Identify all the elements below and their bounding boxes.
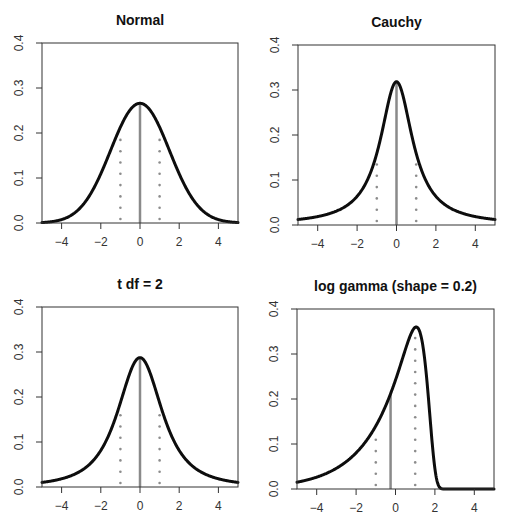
dotted-reference-line	[375, 439, 378, 487]
y-axis: 0.00.10.20.30.4	[12, 34, 42, 231]
x-tick-label: −2	[349, 501, 363, 515]
y-axis: 0.00.10.20.30.4	[12, 298, 42, 495]
y-tick-label: 0.3	[267, 345, 281, 362]
y-tick-label: 0.4	[12, 34, 26, 51]
dotted-reference-line	[415, 163, 418, 222]
y-tick-label: 0.2	[12, 388, 26, 405]
dotted-reference-line	[119, 139, 122, 221]
y-tick-label: 0.0	[12, 478, 26, 495]
y-axis: 0.00.10.20.30.4	[267, 300, 297, 497]
dotted-reference-line	[158, 139, 161, 221]
x-tick-label: 2	[433, 237, 440, 251]
panel-title: t df = 2	[117, 276, 163, 292]
x-tick-label: 4	[471, 501, 478, 515]
y-tick-label: 0.2	[267, 390, 281, 407]
x-axis: −4−2024	[310, 489, 478, 515]
dotted-reference-line	[119, 414, 122, 484]
density-curve	[297, 327, 494, 489]
x-tick-label: −4	[310, 501, 324, 515]
x-axis: −4−2024	[311, 225, 479, 251]
y-tick-label: 0.1	[12, 169, 26, 186]
x-tick-label: −4	[311, 237, 325, 251]
y-tick-label: 0.2	[268, 126, 282, 143]
x-tick-label: 0	[137, 499, 144, 513]
y-tick-label: 0.0	[268, 216, 282, 233]
x-axis: −4−2024	[55, 223, 222, 249]
y-tick-label: 0.1	[12, 433, 26, 450]
y-tick-label: 0.4	[268, 36, 282, 53]
y-tick-label: 0.3	[12, 79, 26, 96]
y-tick-label: 0.4	[267, 300, 281, 317]
x-axis: −4−2024	[55, 487, 222, 513]
x-tick-label: −2	[94, 235, 108, 249]
x-tick-label: −2	[94, 499, 108, 513]
y-tick-label: 0.0	[267, 480, 281, 497]
x-tick-label: 4	[472, 237, 479, 251]
x-tick-label: 2	[432, 501, 439, 515]
x-tick-label: 2	[176, 235, 183, 249]
panel-t-df-2: t df = 2−4−20240.00.10.20.30.4	[12, 276, 238, 513]
y-axis: 0.00.10.20.30.4	[268, 36, 298, 233]
y-tick-label: 0.3	[12, 343, 26, 360]
dotted-reference-line	[376, 163, 379, 222]
y-tick-label: 0.2	[12, 124, 26, 141]
x-tick-label: 4	[215, 499, 222, 513]
panel-log-gamma-shape-0-2: log gamma (shape = 0.2)−4−20240.00.10.20…	[267, 278, 494, 515]
y-tick-label: 0.0	[12, 214, 26, 231]
x-tick-label: 0	[137, 235, 144, 249]
panel-cauchy: Cauchy−4−20240.00.10.20.30.4	[268, 14, 495, 251]
x-tick-label: 0	[393, 237, 400, 251]
x-tick-label: 0	[392, 501, 399, 515]
x-tick-label: 4	[215, 235, 222, 249]
y-tick-label: 0.4	[12, 298, 26, 315]
panel-title: log gamma (shape = 0.2)	[314, 278, 477, 294]
y-tick-label: 0.1	[267, 435, 281, 452]
panel-title: Normal	[116, 12, 164, 28]
plot-frame	[297, 309, 494, 489]
x-tick-label: −4	[55, 235, 69, 249]
panel-title: Cauchy	[371, 14, 422, 30]
dotted-reference-line	[414, 337, 417, 487]
figure-canvas: Normal−4−20240.00.10.20.30.4Cauchy−4−202…	[0, 0, 511, 530]
x-tick-label: −2	[350, 237, 364, 251]
y-tick-label: 0.1	[268, 171, 282, 188]
x-tick-label: −4	[55, 499, 69, 513]
panel-normal: Normal−4−20240.00.10.20.30.4	[12, 12, 238, 249]
x-tick-label: 2	[176, 499, 183, 513]
y-tick-label: 0.3	[268, 81, 282, 98]
dotted-reference-line	[158, 414, 161, 484]
